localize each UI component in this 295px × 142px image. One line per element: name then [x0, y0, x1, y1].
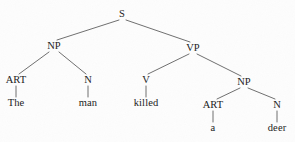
tree-edge-s-to-np1 [57, 20, 119, 40]
leaf-word-killed: killed [134, 98, 159, 109]
tree-node-s: S [119, 9, 125, 20]
tree-node-art2: ART [203, 100, 224, 111]
tree-edges-layer [0, 0, 295, 142]
syntax-tree-diagram: SNPVPARTNVNPThemankilledARTNadeer [0, 0, 295, 142]
tree-edge-vp-to-np2 [197, 54, 241, 76]
tree-node-v: V [142, 75, 150, 86]
tree-edge-np1-to-n1 [59, 52, 86, 74]
tree-edge-s-to-vp [126, 20, 190, 42]
tree-edge-np2-to-art2 [217, 88, 240, 99]
tree-node-n2: N [273, 100, 281, 111]
tree-edge-vp-to-v [148, 54, 189, 74]
leaf-word-a: a [211, 123, 216, 134]
tree-edge-np2-to-n2 [248, 88, 275, 99]
tree-node-n1: N [84, 75, 92, 86]
leaf-word-deer: deer [268, 123, 286, 134]
leaf-word-man: man [79, 98, 97, 109]
tree-node-np2: NP [237, 77, 251, 88]
leaf-word-the: The [8, 98, 25, 109]
tree-node-np1: NP [47, 41, 61, 52]
tree-node-art1: ART [6, 75, 27, 86]
tree-node-vp: VP [186, 43, 200, 54]
tree-edge-np1-to-art1 [19, 52, 49, 74]
